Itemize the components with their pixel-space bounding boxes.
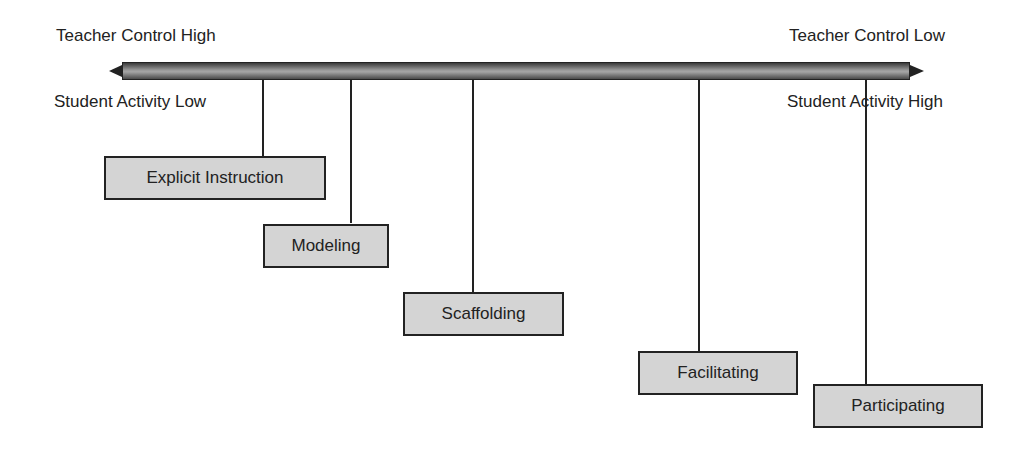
- teacher-control-high-label: Teacher Control High: [56, 26, 216, 46]
- stage-label: Modeling: [292, 236, 361, 256]
- connector-line-explicit-instruction: [262, 80, 264, 158]
- connector-line-modeling: [350, 80, 352, 223]
- right-arrowhead-icon: [910, 65, 924, 77]
- connector-line-scaffolding: [472, 80, 474, 292]
- student-activity-low-label: Student Activity Low: [54, 92, 206, 112]
- stage-label: Scaffolding: [442, 304, 526, 324]
- left-arrowhead-icon: [109, 65, 122, 77]
- stage-box-modeling: Modeling: [263, 224, 389, 268]
- teacher-control-low-label: Teacher Control Low: [789, 26, 945, 46]
- stage-label: Participating: [851, 396, 945, 416]
- continuum-bar: [122, 62, 910, 80]
- stage-box-participating: Participating: [813, 384, 983, 428]
- connector-line-participating: [865, 80, 867, 385]
- stage-box-facilitating: Facilitating: [638, 351, 798, 395]
- connector-line-facilitating: [698, 80, 700, 352]
- stage-box-explicit-instruction: Explicit Instruction: [104, 156, 326, 200]
- stage-label: Explicit Instruction: [147, 168, 284, 188]
- stage-label: Facilitating: [677, 363, 758, 383]
- stage-box-scaffolding: Scaffolding: [403, 292, 564, 336]
